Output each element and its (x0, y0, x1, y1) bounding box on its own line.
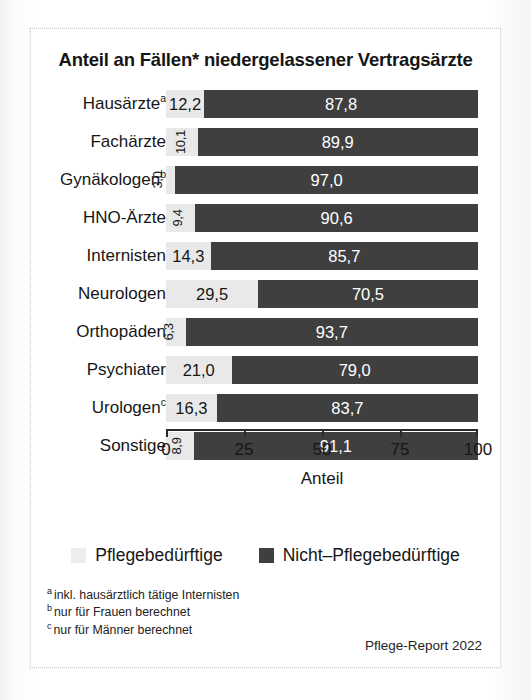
bar-track: 29,570,5 (166, 280, 478, 308)
axis-tick-label: 100 (464, 440, 492, 460)
bar-row: HNO-Ärzte9,490,6 (31, 199, 502, 237)
bar-value-nicht-pflegebeduerftige: 70,5 (258, 280, 478, 308)
bar-value-pflegebeduerftige: 9,4 (164, 201, 192, 235)
axis-tick (400, 429, 402, 437)
bar-value-nicht-pflegebeduerftige: 85,7 (211, 242, 478, 270)
bar-value-nicht-pflegebeduerftige: 83,7 (217, 394, 478, 422)
scanned-page: Anteil an Fällen* niedergelassener Vertr… (0, 0, 531, 700)
figure-card: Anteil an Fällen* niedergelassener Vertr… (30, 28, 501, 668)
x-axis: 0255075100 Anteil (166, 429, 478, 489)
stacked-bar-chart: Hausärztea12,287,8Fachärzte10,189,9Gynäk… (31, 85, 502, 425)
footnote-line: cnur für Männer berechnet (47, 622, 239, 639)
legend-item: Nicht–Pflegebedürftige (259, 545, 460, 566)
chart-legend: PflegebedürftigeNicht–Pflegebedürftige (31, 545, 500, 566)
axis-tick (166, 429, 168, 437)
bar-row: Internisten14,385,7 (31, 237, 502, 275)
bar-track: 10,189,9 (166, 128, 478, 156)
bar-row: Fachärzte10,189,9 (31, 123, 502, 161)
legend-swatch-dark (259, 548, 274, 563)
category-label: Hausärztea (83, 85, 166, 123)
footnote-marker: a (47, 586, 52, 596)
bar-row: Urologenc16,383,7 (31, 389, 502, 427)
axis-tick (476, 429, 478, 437)
bar-track: 16,383,7 (166, 394, 478, 422)
bar-value-nicht-pflegebeduerftige: 87,8 (204, 90, 478, 118)
category-label: Psychiater (87, 351, 166, 389)
legend-swatch-light (71, 548, 86, 563)
bar-value-nicht-pflegebeduerftige: 89,9 (198, 128, 478, 156)
bar-value-nicht-pflegebeduerftige: 90,6 (195, 204, 478, 232)
bar-value-pflegebeduerftige: 29,5 (166, 280, 258, 308)
bar-track: 14,385,7 (166, 242, 478, 270)
bar-track: 21,079,0 (166, 356, 478, 384)
legend-label: Pflegebedürftige (95, 545, 222, 566)
axis-tick (244, 429, 246, 437)
bar-value-nicht-pflegebeduerftige: 79,0 (232, 356, 478, 384)
x-axis-label: Anteil (166, 469, 478, 489)
page-title: Anteil an Fällen* niedergelassener Vertr… (31, 49, 500, 71)
category-label: Urologenc (92, 389, 166, 427)
bar-value-pflegebeduerftige: 16,3 (166, 394, 217, 422)
bar-row: Hausärztea12,287,8 (31, 85, 502, 123)
bar-row: Gynäkologenb3,097,0 (31, 161, 502, 199)
legend-item: Pflegebedürftige (71, 545, 222, 566)
bar-row: Psychiater21,079,0 (31, 351, 502, 389)
footnote-marker: b (47, 603, 52, 613)
category-label: Sonstige (100, 427, 166, 465)
bar-row: Neurologen29,570,5 (31, 275, 502, 313)
category-label: Fachärzte (90, 123, 166, 161)
bar-value-nicht-pflegebeduerftige: 93,7 (186, 318, 478, 346)
footnote-line: bnur für Frauen berechnet (47, 604, 239, 621)
axis-tick (322, 429, 324, 437)
axis-tick-label: 50 (313, 440, 332, 460)
footnote-line: ainkl. hausärztlich tätige Internisten (47, 587, 239, 604)
axis-tick-label: 0 (161, 440, 170, 460)
bar-value-pflegebeduerftige: 14,3 (166, 242, 211, 270)
bar-track: 9,490,6 (166, 204, 478, 232)
bar-row: Orthopäden6,393,7 (31, 313, 502, 351)
bar-value-pflegebeduerftige: 6,3 (155, 315, 183, 349)
bar-value-pflegebeduerftige: 21,0 (166, 356, 232, 384)
axis-tick-label: 25 (235, 440, 254, 460)
category-label: Orthopäden (76, 313, 166, 351)
bar-value-nicht-pflegebeduerftige: 97,0 (175, 166, 478, 194)
category-label: Internisten (87, 237, 166, 275)
footnote-marker: c (47, 621, 52, 631)
bar-value-pflegebeduerftige: 10,1 (167, 125, 195, 159)
bar-track: 12,287,8 (166, 90, 478, 118)
footnotes: ainkl. hausärztlich tätige Internistenbn… (47, 587, 239, 639)
axis-tick-label: 75 (391, 440, 410, 460)
bar-value-pflegebeduerftige: 3,0 (144, 163, 172, 197)
bar-track: 3,097,0 (166, 166, 478, 194)
category-label: HNO-Ärzte (83, 199, 166, 237)
source-note: Pflege-Report 2022 (365, 638, 482, 653)
category-label: Neurologen (78, 275, 166, 313)
legend-label: Nicht–Pflegebedürftige (283, 545, 460, 566)
bar-track: 6,393,7 (166, 318, 478, 346)
bar-value-pflegebeduerftige: 12,2 (166, 90, 204, 118)
